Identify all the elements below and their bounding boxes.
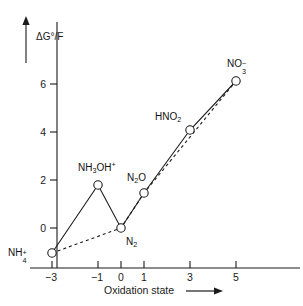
species-label-nh4-plus: NH4+ (8, 248, 27, 258)
x-axis-arrow-icon (186, 287, 223, 294)
y-axis-ticks (50, 84, 57, 228)
y-tick-label-2: 2 (30, 175, 46, 186)
y-axis-label-text: ΔG°/F (36, 31, 63, 42)
species-label-n2: N2 (126, 237, 137, 247)
frost-diagram-figure: ΔG°/F 0 2 4 6 −3 −1 0 1 3 5 Oxidation st… (0, 0, 303, 306)
x-tick-label-5: 5 (233, 272, 239, 283)
data-point-n2o (140, 189, 148, 197)
data-point-nh3oh-plus (94, 181, 102, 189)
x-tick-label-0: 0 (118, 272, 124, 283)
data-point-nh4-plus (48, 249, 56, 257)
y-tick-label-6: 6 (30, 79, 46, 90)
x-tick-label-minus3: −3 (45, 272, 57, 283)
species-label-hno2: HNO2 (155, 112, 181, 122)
data-point-no3-minus (232, 77, 240, 85)
x-tick-label-3: 3 (187, 272, 193, 283)
data-point-n2 (117, 224, 125, 232)
y-axis-label: ΔG°/F (36, 32, 63, 42)
species-label-n2o: N2O (127, 173, 146, 183)
data-point-markers (48, 77, 240, 257)
y-tick-label-0: 0 (30, 223, 46, 234)
y-tick-label-4: 4 (30, 127, 46, 138)
x-tick-label-1: 1 (141, 272, 147, 283)
data-point-hno2 (186, 126, 194, 134)
x-axis-title: Oxidation state (104, 285, 174, 296)
x-axis-ticks (52, 261, 236, 268)
y-axis-arrow-icon (22, 16, 29, 63)
x-tick-label-minus1: −1 (91, 272, 103, 283)
plot-canvas (0, 0, 303, 306)
species-label-nh3oh-plus: NH3OH+ (78, 163, 116, 173)
species-label-no3-minus: NO3− (227, 59, 248, 69)
